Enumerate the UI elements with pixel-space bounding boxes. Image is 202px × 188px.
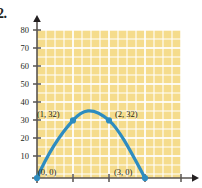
y-tick-label-80: 80 (13, 26, 29, 35)
graph-figure: 80 70 60 50 40 30 20 10 (1, 32) (2, 32) … (0, 0, 202, 188)
marker-3-0 (142, 175, 148, 181)
y-tick-label-50: 50 (13, 80, 29, 89)
y-tick-label-10: 10 (13, 152, 29, 161)
marker-1-32 (70, 117, 76, 123)
annotation-0-0: (0, 0) (38, 168, 56, 177)
y-tick-label-40: 40 (13, 98, 29, 107)
annotation-1-32: (1, 32) (37, 110, 60, 119)
figure-container: 2. (0, 0, 202, 188)
annotation-2-32: (2, 32) (115, 110, 138, 119)
marker-2-32 (106, 117, 112, 123)
y-axis-arrowhead (33, 15, 41, 22)
y-tick-label-70: 70 (13, 44, 29, 53)
y-tick-label-20: 20 (13, 134, 29, 143)
annotation-3-0: (3, 0) (114, 168, 132, 177)
x-axis-arrowhead (192, 174, 199, 182)
coordinate-plot (0, 0, 202, 188)
y-tick-label-60: 60 (13, 62, 29, 71)
y-tick-label-30: 30 (13, 116, 29, 125)
